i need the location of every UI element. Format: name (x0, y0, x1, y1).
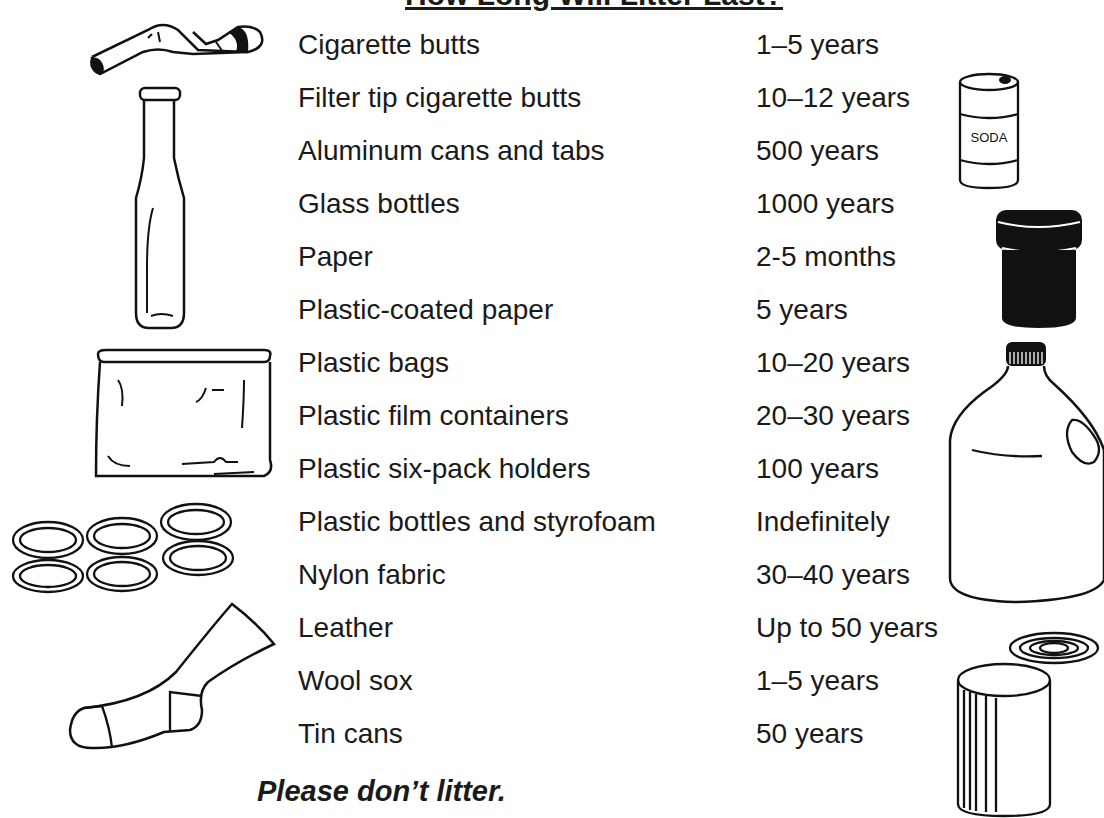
tin-can-icon (956, 628, 1098, 818)
cigarette-butt-icon (88, 22, 268, 82)
item-name: Tin cans (298, 718, 403, 750)
item-duration: 20–30 years (756, 400, 910, 432)
item-name: Plastic bags (298, 347, 449, 379)
sock-icon (66, 602, 278, 750)
item-duration: 50 years (756, 718, 863, 750)
six-pack-rings-icon (10, 502, 236, 594)
footer-message: Please don’t litter. (257, 775, 506, 808)
item-duration: 30–40 years (756, 559, 910, 591)
item-duration: 100 years (756, 453, 879, 485)
item-duration: Indefinitely (756, 506, 890, 538)
item-duration: Up to 50 years (756, 612, 938, 644)
item-name: Plastic six-pack holders (298, 453, 591, 485)
item-name: Leather (298, 612, 393, 644)
item-duration: 5 years (756, 294, 848, 326)
glass-bottle-icon (135, 88, 185, 330)
item-name: Plastic film containers (298, 400, 569, 432)
item-name: Nylon fabric (298, 559, 446, 591)
item-duration: 2-5 months (756, 241, 896, 273)
item-name: Wool sox (298, 665, 413, 697)
item-name: Cigarette butts (298, 29, 480, 61)
plastic-jug-icon (944, 340, 1104, 604)
item-duration: 1000 years (756, 188, 895, 220)
item-duration: 10–12 years (756, 82, 910, 114)
plastic-bag-icon (94, 348, 274, 480)
item-duration: 1–5 years (756, 29, 879, 61)
item-name: Filter tip cigarette butts (298, 82, 581, 114)
item-name: Paper (298, 241, 373, 273)
item-name: Plastic bottles and styrofoam (298, 506, 656, 538)
item-name: Glass bottles (298, 188, 460, 220)
soda-label: SODA (971, 130, 1008, 145)
item-name: Aluminum cans and tabs (298, 135, 605, 167)
item-duration: 1–5 years (756, 665, 879, 697)
item-duration: 500 years (756, 135, 879, 167)
page-title: How Long Will Litter Last? (405, 0, 783, 12)
item-duration: 10–20 years (756, 347, 910, 379)
film-container-icon (994, 206, 1084, 330)
soda-can-icon: SODA (957, 72, 1021, 192)
item-name: Plastic-coated paper (298, 294, 553, 326)
